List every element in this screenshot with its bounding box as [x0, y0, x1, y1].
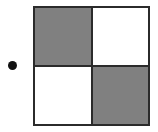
checkerboard-grid	[33, 6, 150, 126]
figure-canvas	[0, 0, 158, 132]
grid-cell-top-right[interactable]	[92, 8, 149, 66]
grid-cell-bottom-left[interactable]	[35, 66, 92, 124]
bullet-dot-marker	[8, 61, 17, 70]
grid-cell-top-left[interactable]	[35, 8, 92, 66]
grid-cell-bottom-right[interactable]	[92, 66, 149, 124]
